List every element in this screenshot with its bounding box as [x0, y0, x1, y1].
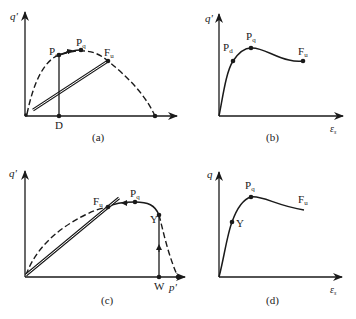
y-axis-label: q: [207, 168, 213, 180]
panel-a: q' Pd Pq Fu D (a): [10, 10, 177, 144]
label-Fu: Fu: [104, 46, 114, 60]
label-Pq: Pq: [76, 36, 86, 50]
caption-b: (b): [266, 131, 279, 144]
point-origin: [24, 113, 28, 117]
point-end: [153, 114, 158, 119]
panel-b: q' εs Pd Pq Fu (b): [205, 12, 343, 144]
y-axis-label: q': [9, 167, 18, 179]
point-Y: [230, 220, 235, 225]
label-Fu: Fu: [298, 193, 308, 207]
label-Fu: Fu: [93, 195, 103, 209]
panel-d: q εs Y Pq Fu (d): [207, 168, 342, 307]
label-Pq: Pq: [246, 30, 256, 44]
point-D: [57, 114, 62, 119]
caption-d: (d): [266, 294, 279, 307]
solid-path-segment: [59, 50, 81, 55]
label-W: W: [154, 280, 165, 292]
double-line-inner: [26, 198, 119, 275]
x-axis-label: p': [168, 281, 178, 293]
label-Pq: Pq: [245, 179, 255, 193]
point-Pq: [249, 195, 254, 200]
caption-c: (c): [101, 294, 114, 307]
label-Fu: Fu: [298, 45, 308, 59]
dashed-curve-right: [159, 215, 178, 277]
caption-a: (a): [92, 131, 105, 144]
label-D: D: [55, 119, 63, 131]
y-axis-label: q': [10, 10, 19, 22]
stress-path-diagram: q' Pd Pq Fu D (a) q' εs Pd Pq Fu: [0, 0, 356, 319]
label-Y: Y: [150, 213, 158, 225]
stress-strain-curve: [219, 197, 304, 277]
point-end: [176, 275, 181, 280]
point-Pd: [231, 59, 236, 64]
point-Pq: [249, 46, 254, 51]
x-axis-label: εs: [330, 284, 337, 296]
point-W: [157, 275, 162, 280]
failure-envelope-curve: [27, 51, 155, 116]
panel-c: q' p' Fu Pq Y W (c): [9, 167, 185, 307]
x-axis-label: εs: [330, 123, 337, 135]
stress-strain-curve: [219, 48, 303, 116]
label-Pq: Pq: [130, 187, 140, 201]
label-Pd: Pd: [49, 45, 59, 59]
y-axis-label: q': [205, 12, 214, 24]
label-Y: Y: [236, 217, 244, 229]
point-Fu: [301, 59, 306, 64]
point-Fu: [106, 205, 111, 210]
label-Pd: Pd: [223, 41, 233, 55]
